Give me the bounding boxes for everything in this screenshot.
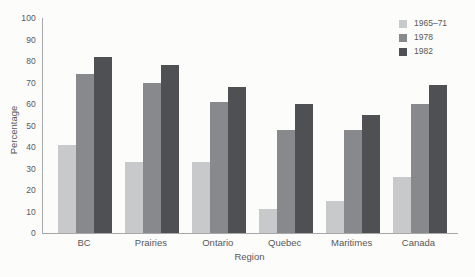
bar-canada-1965-71 — [393, 177, 411, 233]
bar-quebec-1978 — [277, 130, 295, 233]
bar-quebec-1965-71 — [259, 209, 277, 233]
y-axis-tick-labels: 0102030405060708090100 — [0, 18, 36, 233]
x-axis-title: Region — [42, 251, 457, 262]
legend-label: 1978 — [414, 33, 433, 42]
bar-chart-figure: Percentage 0102030405060708090100 BCPrai… — [0, 0, 475, 277]
bar-prairies-1982 — [161, 65, 179, 233]
y-tick-label-30: 30 — [0, 164, 36, 174]
bar-ontario-1965-71 — [192, 162, 210, 233]
bar-maritimes-1978 — [344, 130, 362, 233]
y-tick-label-50: 50 — [0, 121, 36, 131]
x-axis-tick-labels: BCPrairiesOntarioQuebecMaritimesCanada — [42, 237, 457, 249]
y-tick-label-90: 90 — [0, 35, 36, 45]
legend-swatch-icon — [399, 34, 407, 42]
bar-prairies-1965-71 — [125, 162, 143, 233]
y-tick-label-70: 70 — [0, 78, 36, 88]
y-tick-label-60: 60 — [0, 99, 36, 109]
y-tick-label-0: 0 — [0, 228, 36, 238]
bar-prairies-1978 — [143, 83, 161, 234]
bar-canada-1978 — [411, 104, 429, 233]
y-tick-label-20: 20 — [0, 185, 36, 195]
bar-quebec-1982 — [295, 104, 313, 233]
legend-item-1982: 1982 — [399, 47, 447, 56]
legend-label: 1965–71 — [414, 19, 447, 28]
x-tick-label-bc: BC — [77, 237, 90, 248]
bar-bc-1982 — [94, 57, 112, 233]
y-tick-label-40: 40 — [0, 142, 36, 152]
bar-maritimes-1982 — [362, 115, 380, 233]
legend: 1965–7119781982 — [399, 19, 447, 56]
x-tick-label-maritimes: Maritimes — [331, 237, 372, 248]
bar-ontario-1982 — [228, 87, 246, 233]
legend-swatch-icon — [399, 48, 407, 56]
bar-canada-1982 — [429, 85, 447, 233]
x-tick-label-prairies: Prairies — [135, 237, 167, 248]
legend-label: 1982 — [414, 47, 433, 56]
bar-ontario-1978 — [210, 102, 228, 233]
x-tick-label-canada: Canada — [402, 237, 435, 248]
legend-swatch-icon — [399, 20, 407, 28]
plot-area — [42, 18, 458, 234]
y-tick-label-10: 10 — [0, 207, 36, 217]
y-tick-label-80: 80 — [0, 56, 36, 66]
bar-bc-1978 — [76, 74, 94, 233]
bar-maritimes-1965-71 — [326, 201, 344, 233]
bar-bc-1965-71 — [58, 145, 76, 233]
legend-item-1978: 1978 — [399, 33, 447, 42]
x-tick-label-quebec: Quebec — [268, 237, 301, 248]
x-tick-label-ontario: Ontario — [202, 237, 233, 248]
y-tick-label-100: 100 — [0, 13, 36, 23]
legend-item-1965-71: 1965–71 — [399, 19, 447, 28]
